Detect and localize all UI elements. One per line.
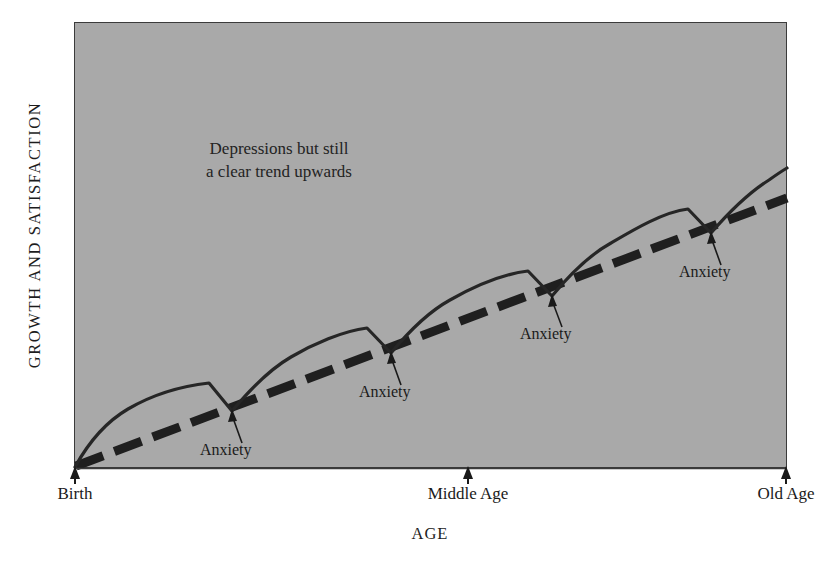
depressions-note-line-2: a clear trend upwards — [168, 161, 390, 184]
y-axis-title-container: GROWTH AND SATISFACTION — [0, 0, 70, 470]
anxiety-label-3: Anxiety — [520, 325, 572, 343]
anxiety-label-1: Anxiety — [200, 441, 252, 459]
anxiety-label-2: Anxiety — [359, 383, 411, 401]
x-axis-title: AGE — [380, 524, 480, 544]
y-axis-title: GROWTH AND SATISFACTION — [25, 102, 45, 369]
growth-satisfaction-chart: GROWTH AND SATISFACTION — [0, 0, 839, 570]
x-tick-arrow-middle-age — [463, 466, 473, 484]
x-tick-label-middle-age: Middle Age — [409, 484, 527, 504]
x-tick-label-old-age: Old Age — [738, 484, 834, 504]
plot-area — [74, 22, 787, 468]
depressions-note-line-1: Depressions but still — [168, 138, 390, 161]
x-tick-arrow-old-age — [781, 466, 791, 484]
x-tick-label-birth: Birth — [44, 484, 106, 504]
depressions-note: Depressions but still a clear trend upwa… — [168, 138, 390, 184]
anxiety-label-4: Anxiety — [679, 263, 731, 281]
x-tick-arrow-birth — [70, 466, 80, 484]
